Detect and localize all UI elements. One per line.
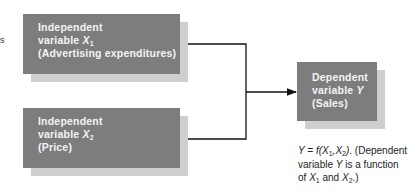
independent-variable-2-box: Independent variable X2 (Price) <box>23 108 180 168</box>
caption-line2: variable Y is a function <box>298 158 413 172</box>
box1-line1: Independent <box>38 21 180 34</box>
independent-variable-1-box: Independent variable X1 (Advertising exp… <box>23 14 180 74</box>
box2-line1: Independent <box>38 115 180 128</box>
box2-line3: (Price) <box>38 141 180 154</box>
box3-line3: (Sales) <box>312 97 377 110</box>
dependent-variable-box: Dependent variable Y (Sales) <box>297 62 377 121</box>
box1-line2: variable X1 <box>38 34 180 47</box>
box2-line2: variable X2 <box>38 128 180 141</box>
box1-line3: (Advertising expenditures) <box>38 47 180 60</box>
caption-line3: of X1 and X2.) <box>298 171 413 185</box>
box3-line2: variable Y <box>312 84 377 97</box>
caption-line1: Y = f(X1,X2). (Dependent <box>298 144 413 158</box>
box3-line1: Dependent <box>312 71 377 84</box>
function-caption: Y = f(X1,X2). (Dependent variable Y is a… <box>298 144 413 185</box>
